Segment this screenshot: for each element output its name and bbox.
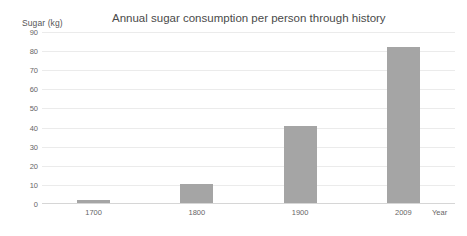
x-axis-tick-label: 1700	[42, 208, 145, 217]
bar-series	[42, 32, 455, 204]
y-axis-tick-label: 80	[8, 47, 38, 56]
y-axis-title: Sugar (kg)	[22, 18, 63, 28]
y-axis-tick-label: 40	[8, 123, 38, 132]
x-axis-tick-labels: 1700180019002009	[42, 208, 455, 217]
plot-area	[42, 32, 455, 204]
y-axis-tick-label: 0	[8, 200, 38, 209]
y-axis-tick-label: 50	[8, 104, 38, 113]
x-axis-tick-label: 1800	[145, 208, 248, 217]
y-axis-tick-labels: 9080706050403020100	[4, 32, 38, 204]
y-axis-tick-label: 70	[8, 66, 38, 75]
y-axis-tick-label: 60	[8, 85, 38, 94]
bar-slot	[42, 32, 145, 204]
bar-chart: Sugar (kg) Annual sugar consumption per …	[0, 0, 467, 236]
y-axis-tick-label: 10	[8, 180, 38, 189]
y-axis-tick-label: 20	[8, 161, 38, 170]
bar-1900[interactable]	[284, 126, 317, 204]
bar-slot	[145, 32, 248, 204]
y-axis-tick-label: 30	[8, 142, 38, 151]
bar-2009[interactable]	[387, 47, 420, 204]
bar-1800[interactable]	[180, 184, 213, 204]
bar-slot	[352, 32, 455, 204]
chart-title: Annual sugar consumption per person thro…	[112, 12, 384, 24]
bar-slot	[249, 32, 352, 204]
x-axis-tick-label: 1900	[249, 208, 352, 217]
y-axis-tick-label: 90	[8, 28, 38, 37]
x-axis-title: Year	[432, 208, 447, 217]
x-axis-line	[42, 203, 455, 204]
